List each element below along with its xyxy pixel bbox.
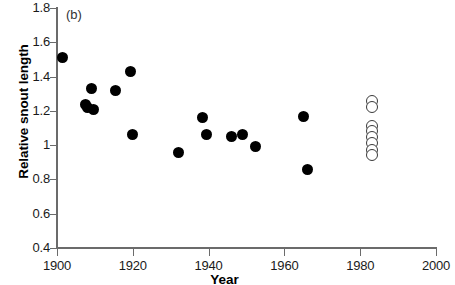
data-point-filled-circle [110, 85, 121, 96]
x-tick-label: 1900 [27, 259, 87, 272]
y-axis-title: Relative snout length [16, 27, 31, 197]
y-tick-mark [50, 179, 57, 180]
x-tick-mark [209, 249, 210, 256]
x-tick-label: 1920 [103, 259, 163, 272]
x-tick-mark [57, 249, 58, 256]
data-point-filled-circle [86, 83, 97, 94]
data-point-open-circle [366, 101, 378, 113]
x-tick-label: 1960 [254, 259, 314, 272]
x-tick-label: 1940 [179, 259, 239, 272]
data-point-filled-circle [57, 52, 68, 63]
y-tick-mark [50, 248, 57, 249]
y-tick-label: 0.6 [0, 207, 50, 220]
data-point-filled-circle [197, 112, 208, 123]
x-tick-mark [360, 249, 361, 256]
data-point-filled-circle [226, 131, 237, 142]
x-axis-title: Year [0, 272, 449, 285]
data-point-filled-circle [127, 129, 138, 140]
y-tick-mark [50, 214, 57, 215]
data-point-filled-circle [302, 164, 313, 175]
data-point-filled-circle [237, 129, 248, 140]
y-tick-mark [50, 77, 57, 78]
data-point-filled-circle [88, 104, 99, 115]
data-point-filled-circle [250, 141, 261, 152]
data-point-filled-circle [125, 66, 136, 77]
x-tick-mark [133, 249, 134, 256]
plot-area [57, 8, 436, 248]
data-point-filled-circle [173, 147, 184, 158]
data-point-filled-circle [201, 129, 212, 140]
y-tick-mark [50, 145, 57, 146]
data-point-filled-circle [298, 111, 309, 122]
data-point-open-circle [366, 149, 378, 161]
x-tick-mark [284, 249, 285, 256]
y-tick-mark [50, 42, 57, 43]
y-tick-label: 0.4 [0, 241, 50, 254]
y-tick-label: 1.8 [0, 1, 50, 14]
x-tick-label: 2000 [406, 259, 455, 272]
y-tick-mark [50, 111, 57, 112]
x-tick-label: 1980 [330, 259, 390, 272]
x-tick-mark [436, 249, 437, 256]
y-tick-mark [50, 8, 57, 9]
